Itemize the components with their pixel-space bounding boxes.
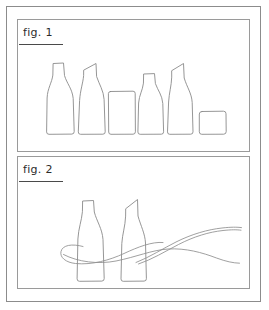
figure-label-2: fig. 2	[23, 164, 53, 176]
figure-label-2-underline	[19, 181, 63, 182]
figure-label-1-underline	[19, 44, 63, 45]
figure-label-1: fig. 1	[23, 27, 53, 39]
illustration-sheet: fig. 1 fig. 2	[0, 0, 269, 310]
